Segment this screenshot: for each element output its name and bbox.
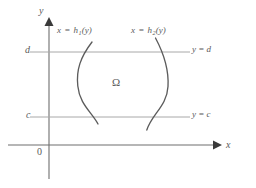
curve-h1-label-arg: (y) [82, 25, 92, 35]
diagram-canvas [0, 0, 256, 188]
y-tick-label-lower: c [26, 110, 30, 120]
y-axis-arrow-icon [45, 17, 54, 26]
curve-h1-label-head: x = h [57, 25, 79, 35]
y-axis-label: y [39, 6, 43, 16]
curve-h2-label-head: x = h [131, 25, 153, 35]
x-axis-label: x [226, 140, 230, 150]
region-omega-label: Ω [112, 77, 120, 88]
level-line-upper-label: y = d [192, 45, 211, 54]
y-tick-label-upper: d [25, 45, 30, 55]
curve-h1-left-boundary [77, 42, 98, 124]
curve-h1-label: x = h1(y) [57, 26, 92, 36]
curve-h2-label-arg: (y) [156, 25, 166, 35]
x-axis-arrow-icon [213, 141, 222, 150]
figure-container: y x 0 d c x = h1(y) x = h2(y) y = d y = … [0, 0, 256, 188]
curve-h2-label: x = h2(y) [131, 26, 166, 36]
origin-label: 0 [37, 147, 42, 157]
y-axis-group [45, 17, 54, 179]
level-line-lower-label: y = c [192, 110, 211, 119]
